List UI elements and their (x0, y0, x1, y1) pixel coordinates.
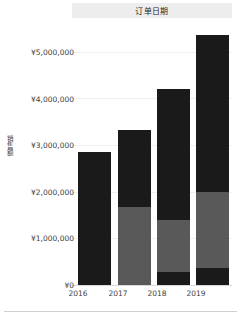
bottom-divider (4, 311, 237, 312)
bar-2018-segment-bottom (157, 272, 190, 285)
x-tick-label-2019: 2019 (176, 289, 216, 298)
x-tick-label-2017: 2017 (98, 289, 138, 298)
x-tick-label-2018: 2018 (137, 289, 177, 298)
bar-2017-segment-middle (118, 207, 151, 285)
bar-2017[interactable] (118, 130, 151, 285)
y-axis-title: 销售额 (2, 135, 12, 156)
y-tick-label-1000000: ¥1,000,000 (12, 234, 74, 243)
y-tick-label-4000000: ¥4,000,000 (12, 95, 74, 104)
bar-2018-segment-middle (157, 220, 190, 272)
bar-2016[interactable] (78, 152, 111, 285)
chart-title: 订单日期 (72, 5, 232, 16)
bar-2018-segment-top (157, 89, 190, 220)
x-axis-line (71, 285, 232, 286)
chart-title-band: 订单日期 (72, 3, 232, 18)
bar-2018[interactable] (157, 89, 190, 285)
x-tick-label-2016: 2016 (58, 289, 98, 298)
y-tick-label-2000000: ¥2,000,000 (12, 188, 74, 197)
bar-2016-segment-top (78, 152, 111, 285)
bar-2017-segment-top (118, 130, 151, 207)
bar-chart: 订单日期 销售额 ¥5,000, (0, 0, 241, 320)
plot-area (71, 20, 232, 285)
bar-2019-segment-bottom (196, 268, 229, 285)
bar-2019-segment-middle (196, 192, 229, 268)
bar-2019[interactable] (196, 35, 229, 285)
y-tick-label-5000000: ¥5,000,000 (12, 48, 74, 57)
bar-2019-segment-top (196, 35, 229, 192)
y-tick-label-3000000: ¥3,000,000 (12, 141, 74, 150)
